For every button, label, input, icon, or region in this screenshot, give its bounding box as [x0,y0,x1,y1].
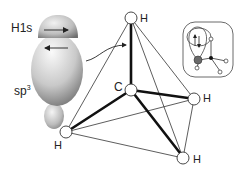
h-top-atom [125,12,137,24]
sp3-label-sup: 3 [27,84,31,91]
big-lobe [31,34,83,106]
sp3-label-base: sp [14,84,27,98]
curved-arrow [86,45,126,61]
h-bottom-label: H [193,154,201,165]
carbon-atom [125,84,137,96]
h-top-label: H [140,13,148,24]
carbon-label: C [114,81,123,93]
sp3-orbital [31,15,83,129]
h-right-label: H [203,93,211,104]
h1s-label: H1s [11,22,32,34]
small-lobe [44,103,64,129]
inset-diagram [183,22,233,77]
h1s-lobe [38,15,78,38]
h-left-atom [60,126,72,138]
h-right-atom [188,93,200,105]
h-bottom-atom [177,152,189,164]
sp3-label: sp3 [14,84,31,97]
h-left-label: H [54,140,62,151]
